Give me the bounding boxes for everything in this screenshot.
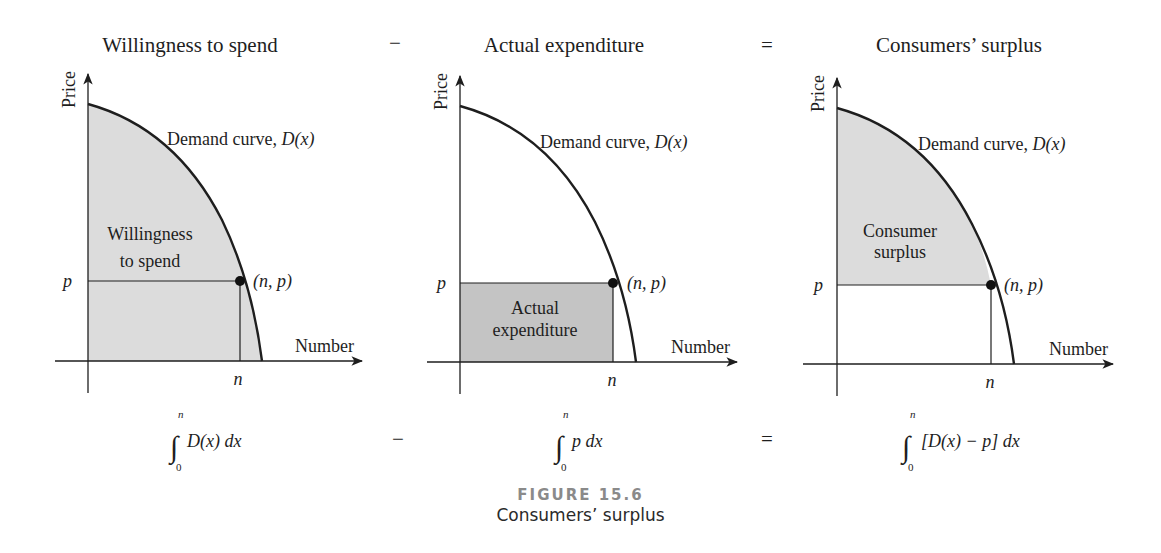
- panel-title: Actual expenditure: [484, 33, 644, 57]
- y-axis-label: Price: [808, 75, 828, 112]
- svg-text:[D(x) − p] dx: [D(x) − p] dx: [921, 431, 1020, 452]
- minus-operator-integrals: −: [392, 427, 404, 451]
- svg-text:D(x) dx: D(x) dx: [186, 431, 241, 452]
- region-label-1: Willingness: [107, 224, 192, 244]
- quantity-tick-label: n: [986, 372, 995, 392]
- x-axis-label: Number: [671, 337, 730, 357]
- figure-caption: Consumers’ surplus: [0, 505, 1161, 525]
- y-axis-label: Price: [431, 73, 451, 110]
- integral-willingness: n ∫ 0 D(x) dx: [168, 408, 241, 473]
- price-tick-label: p: [61, 271, 72, 291]
- equilibrium-point: [986, 280, 996, 290]
- point-label: (n, p): [627, 273, 666, 294]
- panel-willingness-to-spend: Willingness to spend Price Demand curve,…: [55, 33, 362, 473]
- consumers-surplus-diagram: Willingness to spend Price Demand curve,…: [0, 0, 1161, 480]
- x-axis-label: Number: [1049, 339, 1108, 359]
- panel-title: Consumers’ surplus: [876, 33, 1042, 57]
- region-label-1: Consumer: [863, 221, 937, 241]
- svg-text:0: 0: [908, 461, 914, 473]
- curve-label: Demand curve, D(x): [918, 134, 1065, 155]
- svg-text:n: n: [178, 408, 184, 420]
- panel-consumers-surplus: Consumers’ surplus Price Demand curve, D…: [803, 33, 1113, 473]
- figure-number: FIGURE 15.6: [0, 486, 1161, 504]
- integral-surplus: n ∫ 0 [D(x) − p] dx: [900, 408, 1020, 473]
- point-label: (n, p): [253, 271, 292, 292]
- svg-text:n: n: [563, 408, 569, 420]
- quantity-tick-label: n: [608, 370, 617, 390]
- equals-operator-title: =: [761, 33, 773, 57]
- svg-text:p dx: p dx: [570, 431, 603, 451]
- panel-title: Willingness to spend: [102, 33, 278, 57]
- equilibrium-point: [235, 276, 245, 286]
- region-label-2: expenditure: [493, 320, 578, 340]
- region-label-2: surplus: [874, 242, 926, 262]
- svg-text:0: 0: [176, 461, 182, 473]
- panel-actual-expenditure: Actual expenditure Price Demand curve, D…: [427, 33, 737, 473]
- equilibrium-point: [608, 278, 618, 288]
- point-label: (n, p): [1004, 275, 1043, 296]
- equals-operator-integrals: =: [761, 427, 773, 451]
- x-axis-label: Number: [295, 336, 354, 356]
- svg-text:n: n: [910, 408, 916, 420]
- region-label-1: Actual: [511, 298, 559, 318]
- price-tick-label: p: [812, 275, 823, 295]
- quantity-tick-label: n: [234, 369, 243, 389]
- integral-expenditure: n ∫ 0 p dx: [553, 408, 603, 473]
- minus-operator-title: −: [389, 31, 401, 55]
- price-tick-label: p: [435, 273, 446, 293]
- svg-text:0: 0: [561, 461, 567, 473]
- region-label-2: to spend: [120, 251, 181, 271]
- curve-label: Demand curve, D(x): [540, 132, 687, 153]
- curve-label: Demand curve, D(x): [167, 129, 314, 150]
- y-axis-label: Price: [59, 71, 79, 108]
